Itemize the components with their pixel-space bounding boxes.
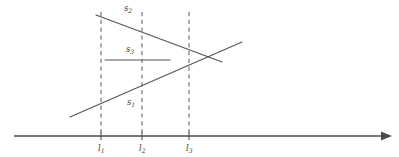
segment-s1-line (70, 42, 242, 117)
axis-tick-label-l3: l3 (186, 143, 193, 154)
axis-arrowhead-icon (381, 131, 392, 140)
segment-s2-line (96, 15, 222, 62)
figure-canvas: s2 s3 s1 l1 l2 l3 (0, 0, 399, 157)
segment-label-s2: s2 (124, 3, 132, 14)
diagram-svg: s2 s3 s1 l1 l2 l3 (0, 0, 399, 157)
segment-label-s1: s1 (127, 97, 135, 108)
segment-label-s3: s3 (126, 44, 134, 55)
axis-tick-label-l2: l2 (139, 143, 146, 154)
axis-tick-label-l1: l1 (98, 143, 105, 154)
